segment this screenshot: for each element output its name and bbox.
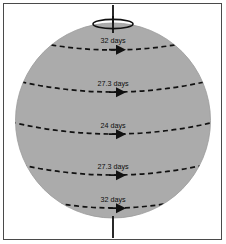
period-label-3: 24 days [100, 121, 126, 130]
period-label-5: 32 days [100, 195, 126, 204]
differential-rotation-diagram: 32 days 27.3 days 24 days 27.3 days 32 d… [0, 0, 226, 244]
period-label-2: 27.3 days [97, 79, 129, 88]
period-label-4: 27.3 days [97, 162, 129, 171]
period-label-1: 32 days [100, 36, 126, 45]
